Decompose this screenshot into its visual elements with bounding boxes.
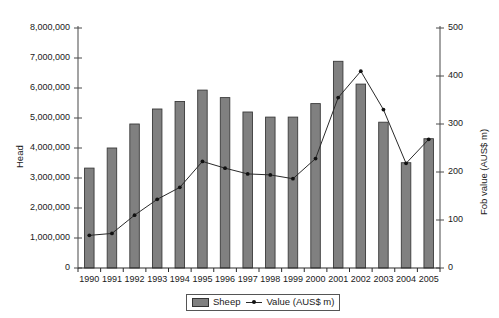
bar-1992 — [130, 124, 140, 268]
chart-plot-area — [0, 0, 499, 318]
value-marker-1997 — [246, 172, 250, 176]
value-marker-1994 — [178, 185, 182, 189]
y-tick-label-right: 100 — [448, 214, 463, 224]
bar-1991 — [107, 148, 117, 268]
y-tick-label-left: 0 — [2, 262, 70, 272]
bar-1995 — [198, 90, 208, 268]
value-marker-2005 — [427, 137, 431, 141]
bar-2005 — [424, 139, 434, 268]
legend-entry-value: Value (AUS$ m) — [246, 296, 334, 308]
x-tick-label-2005: 2005 — [415, 274, 443, 284]
bar-1998 — [266, 117, 276, 268]
bar-1994 — [175, 102, 185, 269]
value-marker-1998 — [268, 173, 272, 177]
y-tick-label-left: 5,000,000 — [2, 112, 70, 122]
y-tick-label-right: 300 — [448, 118, 463, 128]
bar-2004 — [401, 163, 411, 268]
chart-legend: Sheep Value (AUS$ m) — [186, 294, 340, 311]
bar-2003 — [379, 122, 389, 268]
bar-2000 — [311, 104, 321, 268]
y-tick-label-right: 0 — [448, 262, 453, 272]
value-marker-1991 — [110, 232, 114, 236]
value-marker-1999 — [291, 177, 295, 181]
bar-1996 — [220, 98, 230, 268]
y-tick-label-left: 8,000,000 — [2, 22, 70, 32]
y-tick-label-right: 400 — [448, 70, 463, 80]
y-tick-label-left: 7,000,000 — [2, 52, 70, 62]
value-marker-2003 — [382, 108, 386, 112]
value-marker-2000 — [314, 157, 318, 161]
bar-2001 — [333, 61, 343, 268]
y-tick-label-left: 2,000,000 — [2, 202, 70, 212]
bar-2002 — [356, 84, 366, 268]
value-marker-1990 — [87, 233, 91, 237]
value-marker-1996 — [223, 166, 227, 170]
bar-swatch-icon — [192, 298, 209, 307]
value-marker-2001 — [336, 96, 340, 100]
legend-label-sheep: Sheep — [213, 296, 240, 308]
value-marker-1992 — [133, 213, 137, 217]
value-line — [89, 71, 428, 235]
value-marker-2004 — [404, 161, 408, 165]
y-tick-label-left: 3,000,000 — [2, 172, 70, 182]
y-tick-label-left: 4,000,000 — [2, 142, 70, 152]
chart-container: Head Fob value (AUS$ m) 01,000,0002,000,… — [0, 0, 499, 318]
value-marker-1995 — [201, 160, 205, 164]
value-marker-2002 — [359, 69, 363, 73]
value-marker-1993 — [155, 197, 159, 201]
bar-1990 — [85, 168, 95, 268]
y-tick-label-right: 200 — [448, 166, 463, 176]
y-tick-label-left: 6,000,000 — [2, 82, 70, 92]
bar-1999 — [288, 117, 298, 268]
legend-entry-sheep: Sheep — [192, 296, 240, 308]
legend-label-value: Value (AUS$ m) — [266, 296, 334, 308]
line-marker-icon — [246, 299, 262, 306]
bar-1993 — [152, 109, 162, 268]
y-tick-label-right: 500 — [448, 22, 463, 32]
y-tick-label-left: 1,000,000 — [2, 232, 70, 242]
y-axis-right-title: Fob value (AUS$ m) — [478, 129, 489, 215]
bar-1997 — [243, 112, 253, 268]
